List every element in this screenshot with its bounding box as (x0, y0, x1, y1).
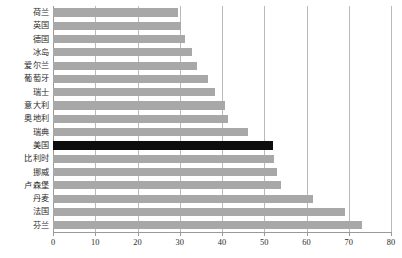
y-axis-label: 葡萄牙 (24, 72, 49, 85)
x-tick-40 (222, 232, 223, 236)
bar (53, 62, 197, 70)
x-tick-20 (138, 232, 139, 236)
bar-row (53, 46, 391, 59)
y-axis-label: 比利时 (24, 152, 49, 165)
y-axis-label: 瑞典 (33, 126, 49, 139)
bar-series (53, 6, 391, 232)
bar-row (53, 205, 391, 218)
bar-row (53, 166, 391, 179)
bar-row (53, 139, 391, 152)
x-tick-10 (95, 232, 96, 236)
bar (53, 195, 313, 203)
bar (53, 208, 345, 216)
horizontal-bar-chart: 荷兰英国德国冰岛爱尔兰葡萄牙瑞士意大利奥地利瑞典美国比利时挪威卢森堡丹麦法国芬兰… (0, 0, 402, 258)
x-tick-label: 0 (51, 238, 55, 247)
y-axis-label: 奥地利 (24, 112, 49, 125)
bar (53, 181, 281, 189)
bar (53, 75, 208, 83)
bar (53, 128, 248, 136)
bar-row (53, 179, 391, 192)
x-tick-80 (391, 232, 392, 236)
bar (53, 8, 178, 16)
x-tick-label: 50 (260, 238, 268, 247)
y-axis-label: 意大利 (24, 99, 49, 112)
y-axis-label: 冰岛 (33, 46, 49, 59)
bar (53, 101, 225, 109)
bar (53, 48, 192, 56)
bar (53, 115, 228, 123)
y-axis-label: 卢森堡 (24, 179, 49, 192)
bar (53, 22, 181, 30)
bar-row (53, 219, 391, 232)
y-axis-label: 爱尔兰 (24, 59, 49, 72)
x-tick-label: 10 (91, 238, 99, 247)
bar-row (53, 6, 391, 19)
x-tick-30 (180, 232, 181, 236)
bar-row (53, 99, 391, 112)
y-axis-label: 丹麦 (33, 192, 49, 205)
bar-row (53, 33, 391, 46)
bar-row (53, 126, 391, 139)
bar-row (53, 152, 391, 165)
bar-row (53, 59, 391, 72)
bar (53, 168, 277, 176)
x-tick-label: 20 (133, 238, 141, 247)
x-tick-70 (349, 232, 350, 236)
bar (53, 88, 215, 96)
x-tick-0 (53, 232, 54, 236)
y-axis-category-labels: 荷兰英国德国冰岛爱尔兰葡萄牙瑞士意大利奥地利瑞典美国比利时挪威卢森堡丹麦法国芬兰 (0, 6, 49, 232)
y-axis-label: 芬兰 (33, 219, 49, 232)
x-tick-label: 60 (302, 238, 310, 247)
x-tick-label: 30 (176, 238, 184, 247)
bar (53, 35, 185, 43)
bar (53, 155, 274, 163)
x-tick-60 (307, 232, 308, 236)
bar (53, 221, 362, 229)
y-axis-label: 美国 (33, 139, 49, 152)
plot-area (53, 6, 391, 232)
y-axis-label: 荷兰 (33, 6, 49, 19)
x-tick-label: 80 (387, 238, 395, 247)
y-axis-label: 瑞士 (33, 86, 49, 99)
bar-row (53, 72, 391, 85)
bar-row (53, 192, 391, 205)
gridline-80 (391, 6, 392, 232)
bar-row (53, 112, 391, 125)
bar-row (53, 19, 391, 32)
x-tick-50 (264, 232, 265, 236)
bar-highlight (53, 141, 273, 151)
bar-row (53, 86, 391, 99)
y-axis-label: 德国 (33, 33, 49, 46)
x-tick-label: 40 (218, 238, 226, 247)
y-axis-label: 挪威 (33, 166, 49, 179)
y-axis-label: 法国 (33, 205, 49, 218)
y-axis-label: 英国 (33, 19, 49, 32)
x-tick-label: 70 (345, 238, 353, 247)
